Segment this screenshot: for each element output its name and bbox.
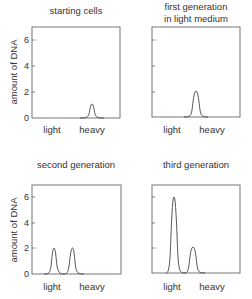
dna-peak-intermediate [184,91,208,117]
panel-title: starting cells [50,5,103,16]
y-tick-0: 0 [24,113,29,123]
panel-title: third generation [163,159,229,170]
panel-title-line2: in light medium [164,13,228,24]
y-axis-label: amount of DNA [8,197,19,263]
panel-second-generation: second generation amount of DNA 6 4 2 0 … [8,159,121,292]
plot-frame [152,27,240,117]
dna-peak-intermediate [184,247,205,273]
x-label-heavy: heavy [79,281,105,292]
panel-first-generation: first generation in light medium light h… [152,1,240,135]
y-tick-0: 0 [24,269,29,279]
dna-peak-light [166,197,184,273]
meselson-stahl-figure: starting cells amount of DNA 6 4 2 0 lig… [0,0,252,299]
y-tick-4: 4 [24,218,29,228]
plot-frame [32,27,120,118]
x-label-light: light [43,124,61,135]
x-label-heavy: heavy [79,124,105,135]
y-axis-label: amount of DNA [8,39,19,105]
y-tick-6: 6 [24,192,29,202]
plot-frame [32,185,121,274]
panel-title: second generation [37,159,115,170]
x-label-heavy: heavy [199,124,225,135]
panel-starting-cells: starting cells amount of DNA 6 4 2 0 lig… [8,5,120,135]
y-tick-4: 4 [24,61,29,71]
panel-title-line1: first generation [165,1,228,12]
x-label-heavy: heavy [199,281,225,292]
x-label-light: light [163,281,181,292]
y-tick-2: 2 [24,87,29,97]
dna-peak-heavy [80,104,104,118]
y-tick-2: 2 [24,243,29,253]
y-tick-6: 6 [24,35,29,45]
x-label-light: light [43,281,61,292]
dna-peak-light [44,248,63,274]
dna-peak-intermediate [63,248,84,274]
panel-third-generation: third generation light heavy [152,159,240,292]
x-label-light: light [163,124,181,135]
